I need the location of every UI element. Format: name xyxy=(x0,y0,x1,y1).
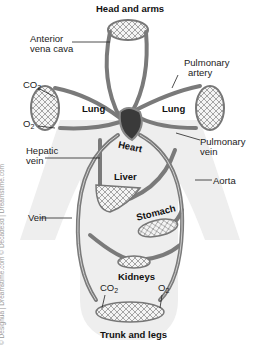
label-anterior-vena-cava-2: vena cava xyxy=(30,44,73,54)
o2-subscript: 2 xyxy=(30,123,34,130)
label-lung-left: Lung xyxy=(82,104,105,114)
label-pulmonary-vein-2: vein xyxy=(200,147,217,157)
circulatory-diagram: Head and arms Anterior vena cava Pulmona… xyxy=(0,0,255,349)
co2-text: CO xyxy=(23,79,37,90)
label-aorta: Aorta xyxy=(213,176,236,186)
label-lung-right: Lung xyxy=(162,104,185,114)
right-lung xyxy=(196,86,224,130)
watermark: © Designua | Dreamstime.com © Decade3d |… xyxy=(0,164,5,345)
head-capillary xyxy=(108,20,148,40)
o2-subscript: 2 xyxy=(165,287,169,294)
co2-subscript: 2 xyxy=(114,287,118,294)
label-pulmonary-artery-2: artery xyxy=(188,68,212,78)
kidneys-shape xyxy=(118,256,150,268)
trunk-legs-capillary xyxy=(96,302,164,322)
co2-text: CO xyxy=(100,282,114,293)
label-trunk-and-legs: Trunk and legs xyxy=(100,330,167,340)
label-co2-bottom: CO2 xyxy=(100,283,118,296)
label-o2-left: O2 xyxy=(23,119,34,132)
co2-subscript: 2 xyxy=(37,84,41,91)
label-hepatic-vein-2: vein xyxy=(26,156,43,166)
label-co2-left: CO2 xyxy=(23,80,41,93)
label-vein: Vein xyxy=(28,213,47,223)
label-liver: Liver xyxy=(114,172,137,182)
label-o2-bottom: O2 xyxy=(158,283,169,296)
label-kidneys: Kidneys xyxy=(118,272,155,282)
label-head-and-arms: Head and arms xyxy=(96,4,164,14)
